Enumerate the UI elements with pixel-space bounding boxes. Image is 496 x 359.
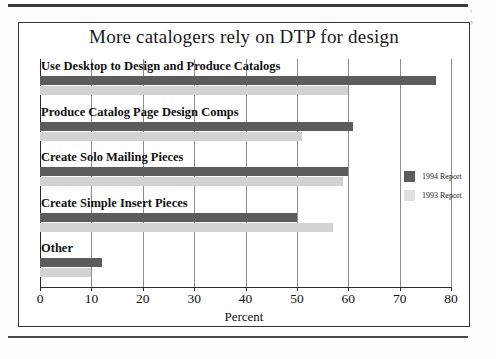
x-tick-label-60: 60 — [342, 291, 356, 307]
x-tick-label-70: 70 — [393, 291, 407, 307]
bar-group: Create Solo Mailing Pieces — [40, 150, 451, 196]
bar-group-label: Create Simple Insert Pieces — [41, 196, 188, 211]
x-tick-label-10: 10 — [85, 291, 99, 307]
chart-frame: More catalogers rely on DTP for design U… — [18, 22, 470, 327]
legend-item[interactable]: 1994 Report — [404, 171, 462, 182]
margin-note: t p — [470, 6, 496, 54]
bar-series1 — [40, 213, 297, 222]
bar-series1 — [40, 258, 102, 267]
chart-title: More catalogers rely on DTP for design — [19, 26, 469, 48]
plot-area: Use Desktop to Design and Produce Catalo… — [40, 59, 451, 287]
page-rule-top — [8, 4, 468, 7]
bar-group: Other — [40, 241, 451, 287]
bar-series2 — [40, 177, 343, 186]
margin-note-line-1: t — [470, 6, 496, 17]
x-tick-label-40: 40 — [239, 291, 253, 307]
bar-series2 — [40, 268, 91, 277]
bar-group-label: Create Solo Mailing Pieces — [41, 150, 183, 165]
legend-label: 1994 Report — [422, 172, 462, 181]
bar-group: Use Desktop to Design and Produce Catalo… — [40, 59, 451, 105]
x-tick-label-50: 50 — [290, 291, 304, 307]
x-tick-label-0: 0 — [37, 291, 44, 307]
bar-series2 — [40, 132, 302, 141]
page-rule-bottom — [8, 336, 468, 338]
legend-label: 1993 Report — [422, 191, 462, 200]
bar-series1 — [40, 122, 353, 131]
bar-series2 — [40, 223, 333, 232]
bar-group-label: Use Desktop to Design and Produce Catalo… — [41, 59, 280, 74]
bar-series2 — [40, 86, 348, 95]
bar-series1 — [40, 76, 436, 85]
x-axis-title: Percent — [19, 309, 469, 325]
x-tick-label-20: 20 — [136, 291, 150, 307]
bar-series1 — [40, 167, 348, 176]
x-tick-label-80: 80 — [444, 291, 458, 307]
legend-item[interactable]: 1993 Report — [404, 190, 462, 201]
margin-note-line-2: p — [470, 17, 496, 28]
legend-swatch-icon — [404, 190, 415, 201]
bar-group: Produce Catalog Page Design Comps — [40, 105, 451, 151]
chart-legend: 1994 Report1993 Report — [404, 171, 462, 209]
x-tick-label-30: 30 — [187, 291, 201, 307]
bar-group: Create Simple Insert Pieces — [40, 196, 451, 242]
bar-group-label: Produce Catalog Page Design Comps — [41, 105, 239, 120]
legend-swatch-icon — [404, 171, 415, 182]
bar-group-label: Other — [41, 241, 73, 256]
